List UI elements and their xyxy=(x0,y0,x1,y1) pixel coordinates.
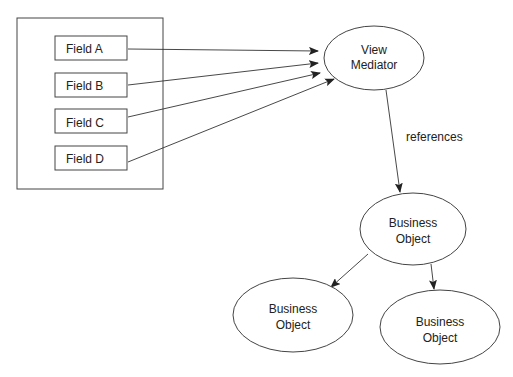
field-c-label: Field C xyxy=(66,116,104,130)
field-a-label: Field A xyxy=(66,42,103,56)
business-object-right-line1: Business xyxy=(416,315,465,329)
field-c-node: Field C xyxy=(55,109,127,133)
business-object-left-line2: Object xyxy=(276,318,311,332)
business-object-left-node: Business Object xyxy=(233,278,353,352)
field-d-label: Field D xyxy=(66,152,104,166)
arrow-to-business-object-left xyxy=(331,254,368,287)
view-mediator-label-line2: Mediator xyxy=(351,58,398,72)
arrow-references xyxy=(386,90,400,192)
view-mediator-node: View Mediator xyxy=(324,26,424,90)
view-mediator-label-line1: View xyxy=(361,43,387,57)
field-b-node: Field B xyxy=(55,73,127,97)
business-object-top-line2: Object xyxy=(396,232,431,246)
business-object-left-line1: Business xyxy=(269,302,318,316)
business-object-right-node: Business Object xyxy=(380,290,500,364)
diagram-canvas: Field A Field B Field C Field D View Med… xyxy=(0,0,513,377)
business-object-top-node: Business Object xyxy=(360,193,466,265)
field-d-node: Field D xyxy=(55,146,127,170)
field-b-label: Field B xyxy=(66,79,103,93)
business-object-right-line2: Object xyxy=(423,331,458,345)
arrow-to-business-object-right xyxy=(431,264,434,289)
references-label: references xyxy=(406,130,463,144)
field-a-node: Field A xyxy=(55,36,127,60)
business-object-top-line1: Business xyxy=(389,216,438,230)
